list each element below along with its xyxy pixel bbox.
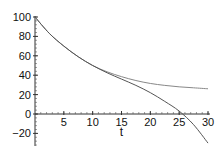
x-tick-label: 30 (202, 116, 214, 128)
x-tick-label: 5 (61, 116, 67, 128)
y-tick-label: −20 (12, 127, 31, 139)
chart: −2002040608010051015202530 t (0, 0, 223, 157)
y-tick-label: 20 (19, 89, 31, 101)
y-tick-label: 40 (19, 69, 31, 81)
upper-curve (35, 17, 208, 89)
y-tick-label: 60 (19, 50, 31, 62)
x-tick-label: 10 (87, 116, 99, 128)
y-tick-label: 80 (19, 30, 31, 42)
y-tick-label: 0 (25, 108, 31, 120)
x-tick-label: 25 (173, 116, 185, 128)
y-tick-label: 100 (13, 11, 31, 23)
x-tick-label: 20 (144, 116, 156, 128)
